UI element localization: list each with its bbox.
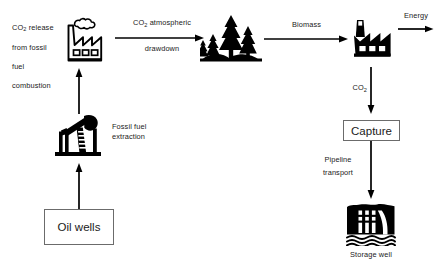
- process-diagram: CO2 release from fossil fuel combustion …: [0, 0, 441, 270]
- factory-icon: [348, 15, 396, 63]
- capture-box[interactable]: Capture: [343, 120, 400, 141]
- label-storage-well: Storage well: [335, 250, 407, 260]
- label-fossil-fuel-extraction: Fossil fuel extraction: [112, 122, 174, 141]
- factory-smokestack-icon: [61, 15, 117, 67]
- arrow-wells-to-pumpjack: [74, 163, 84, 210]
- label-pipeline-bottom: transport: [312, 168, 364, 178]
- arrow-co2-to-capture: [366, 67, 376, 115]
- co2-release-line1: CO2 release: [12, 23, 54, 32]
- label-biomass: Biomass: [264, 20, 349, 30]
- label-energy: Energy: [396, 11, 436, 21]
- arrow-pipeline-transport: [366, 141, 376, 200]
- oil-pumpjack-icon: [52, 113, 106, 160]
- forest-trees-icon: [200, 12, 262, 64]
- oil-wells-box[interactable]: Oil wells: [44, 209, 114, 245]
- co2-release-line2: from fossil: [12, 43, 47, 52]
- arrow-pumpjack-to-plant: [74, 68, 84, 114]
- capture-box-label: Capture: [351, 125, 392, 137]
- arrow-biomass: [264, 34, 349, 44]
- dam-water-icon: [343, 203, 399, 246]
- label-co2-drawdown-top: CO2 atmospheric: [119, 18, 205, 29]
- label-pipeline-top: Pipeline: [312, 155, 364, 165]
- co2-release-line3: fuel: [12, 62, 24, 71]
- label-co2-drawdown-bottom: drawdown: [119, 44, 205, 54]
- arrow-energy: [398, 24, 434, 34]
- co2-release-line4: combustion: [12, 81, 51, 90]
- oil-wells-box-label: Oil wells: [58, 221, 101, 233]
- label-co2-to-capture: CO2: [343, 83, 367, 94]
- arrow-co2-drawdown: [115, 33, 205, 43]
